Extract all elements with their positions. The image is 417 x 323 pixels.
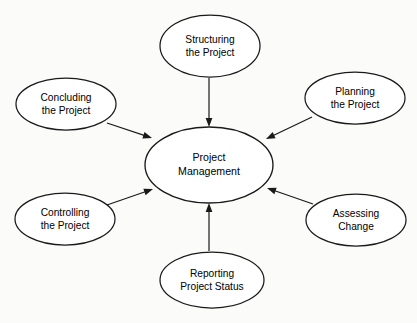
node-concluding-the-project[interactable]: Concludingthe Project xyxy=(16,78,116,130)
node-assessing-change[interactable]: AssessingChange xyxy=(306,194,406,246)
node-reporting-project-status-label-line1: Reporting xyxy=(190,268,235,279)
arrow-assessing-to-hub-head xyxy=(267,188,277,194)
arrow-concluding-to-hub-head xyxy=(142,132,152,138)
node-controlling-the-project-label-line2: the Project xyxy=(41,220,90,231)
arrow-planning-to-hub-head xyxy=(266,132,276,139)
arrow-reporting-to-hub xyxy=(206,203,213,251)
arrow-planning-to-hub xyxy=(266,117,312,139)
node-project-management[interactable]: ProjectManagement xyxy=(145,127,273,203)
node-concluding-the-project-label-line2: the Project xyxy=(42,105,91,116)
arrow-concluding-to-hub-shaft xyxy=(107,123,145,136)
node-project-management-label-line1: Project xyxy=(193,151,226,163)
node-planning-the-project-label-line2: the Project xyxy=(331,99,380,110)
node-planning-the-project[interactable]: Planningthe Project xyxy=(305,72,405,124)
node-planning-the-project-label-line1: Planning xyxy=(335,86,375,97)
arrow-planning-to-hub-shaft xyxy=(273,117,312,136)
node-reporting-project-status-label-line2: Project Status xyxy=(180,281,243,292)
project-management-diagram: Structuringthe ProjectConcludingthe Proj… xyxy=(0,0,417,323)
arrow-structuring-to-hub xyxy=(206,78,213,127)
arrow-reporting-to-hub-head xyxy=(206,203,213,212)
nodes-layer: Structuringthe ProjectConcludingthe Proj… xyxy=(15,15,406,308)
node-reporting-project-status[interactable]: ReportingProject Status xyxy=(160,252,264,308)
node-controlling-the-project[interactable]: Controllingthe Project xyxy=(15,193,115,245)
node-structuring-the-project[interactable]: Structuringthe Project xyxy=(160,15,260,77)
diagram-canvas: Structuringthe ProjectConcludingthe Proj… xyxy=(0,0,417,323)
node-assessing-change-label-line2: Change xyxy=(338,221,374,232)
node-project-management-label-line2: Management xyxy=(178,165,240,177)
node-structuring-the-project-label-line2: the Project xyxy=(186,47,235,58)
arrow-controlling-to-hub xyxy=(107,189,153,205)
arrow-controlling-to-hub-shaft xyxy=(107,191,146,205)
node-controlling-the-project-label-line1: Controlling xyxy=(41,207,90,218)
arrow-structuring-to-hub-head xyxy=(206,118,213,127)
node-structuring-the-project-label-line1: Structuring xyxy=(185,34,235,45)
arrow-assessing-to-hub xyxy=(267,188,313,204)
node-concluding-the-project-label-line1: Concluding xyxy=(41,92,92,103)
arrow-concluding-to-hub xyxy=(107,123,152,138)
arrow-controlling-to-hub-head xyxy=(143,189,153,195)
arrow-assessing-to-hub-shaft xyxy=(274,190,313,204)
node-assessing-change-label-line1: Assessing xyxy=(333,208,380,219)
